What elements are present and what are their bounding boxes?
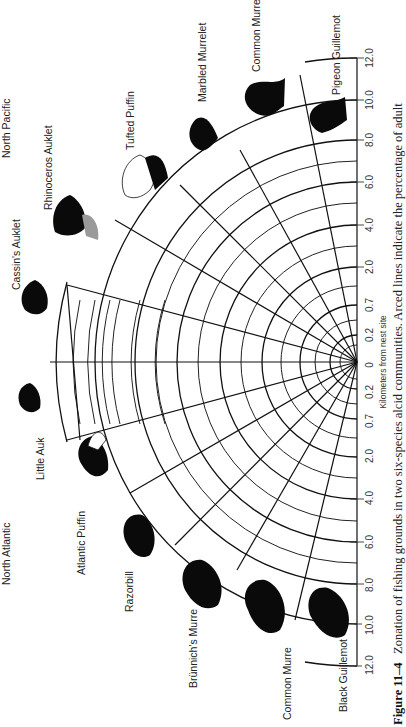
- black-guillemot-bird: [308, 588, 349, 638]
- label-common-murre-atlantic: Common Murre: [281, 647, 293, 720]
- axis-title: Kilometers from nest site: [378, 315, 388, 409]
- caption-text: Zonation of fishing grounds in two six-s…: [391, 103, 405, 654]
- cassins-auklet-bird: [22, 280, 48, 314]
- rhinoceros-auklet-bird: [53, 195, 86, 235]
- tick-p-0.7: 0.7: [364, 298, 375, 312]
- tick-p-10.0: 10.0: [364, 90, 375, 110]
- tick-p-6.0: 6.0: [364, 175, 375, 189]
- tick-a-4.0: 4.0: [364, 491, 375, 505]
- tick-p-2.0: 2.0: [364, 260, 375, 274]
- label-cassins-auklet: Cassin's Auklet: [10, 219, 22, 290]
- tick-p-8.0: 8.0: [364, 133, 375, 147]
- label-black-guillemot: Black Guillemot: [337, 639, 349, 712]
- figure-caption: Figure 11–4 Zonation of fishing grounds …: [388, 103, 405, 725]
- little-auk-bird: [18, 383, 40, 412]
- label-common-murre-pacific: Common Murre: [250, 0, 262, 72]
- razorbill-bird: [124, 515, 155, 557]
- tick-a-6.0: 6.0: [364, 535, 375, 549]
- label-brunnichs-murre: Brünnich's Murre: [187, 609, 199, 688]
- tick-p-12.0: 12.0: [364, 48, 375, 68]
- caption-label: Figure 11–4: [391, 662, 405, 725]
- axis-tick-labels: 0 0.2 0.7 2.0 4.0 6.0 8.0 10.0 12.0 0.2 …: [364, 48, 388, 675]
- label-north-pacific: North Pacific: [0, 98, 12, 158]
- label-little-auk: Little Auk: [34, 437, 46, 480]
- tick-a-10.0: 10.0: [364, 615, 375, 635]
- label-marbled-murrelet: Marbled Murrelet: [196, 23, 208, 102]
- tick-a-12.0: 12.0: [364, 655, 375, 675]
- common-murre-atlantic-bird: [245, 580, 285, 633]
- label-razorbill: Razorbill: [123, 571, 135, 612]
- label-tufted-puffin: Tufted Puffin: [124, 91, 136, 150]
- label-pigeon-guillemot: Pigeon Guillemot: [330, 15, 342, 95]
- pigeon-guillemot-bird: [310, 97, 347, 133]
- tick-a-0.2: 0.2: [364, 385, 375, 399]
- tick-a-0.7: 0.7: [364, 414, 375, 428]
- common-murre-pacific-bird: [245, 78, 285, 116]
- species-labels-atlantic: North Atlantic Little Auk Atlantic Puffi…: [0, 437, 349, 720]
- bird-illustrations: [18, 78, 348, 638]
- tick-center: 0: [364, 362, 375, 368]
- tick-a-2.0: 2.0: [364, 449, 375, 463]
- alcid-zonation-figure: North Pacific Rhinoceros Auklet Cassin's…: [0, 0, 406, 727]
- tick-a-8.0: 8.0: [364, 578, 375, 592]
- marbled-murrelet-bird: [189, 118, 218, 151]
- label-atlantic-puffin: Atlantic Puffin: [75, 511, 87, 575]
- label-rhinoceros-auklet: Rhinoceros Auklet: [42, 125, 54, 210]
- species-labels-pacific: North Pacific Rhinoceros Auklet Cassin's…: [0, 0, 342, 290]
- tick-p-0.2: 0.2: [364, 328, 375, 342]
- brunnichs-murre-bird: [182, 560, 221, 608]
- tick-p-4.0: 4.0: [364, 218, 375, 232]
- svg-text:Figure 11–4 Zonation of: Figure 11–4 Zonation of fishing grounds …: [388, 103, 405, 725]
- label-north-atlantic: North Atlantic: [0, 523, 12, 585]
